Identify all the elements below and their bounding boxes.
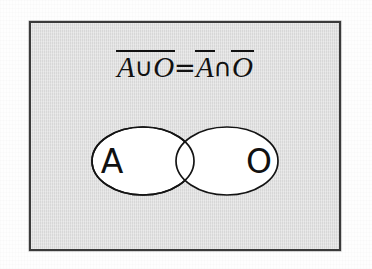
- overbar-union-group: A∪O: [117, 53, 174, 82]
- formula-right-set-o: O: [232, 51, 253, 83]
- equals-sign: =: [174, 53, 196, 83]
- venn-diagram: A O: [31, 114, 343, 214]
- figure-root: A∪O=A∩O A O: [0, 0, 372, 269]
- venn-label-o: O: [246, 142, 272, 181]
- set-identity-formula: A∪O=A∩O: [31, 53, 339, 82]
- union-operator-icon: ∪: [135, 53, 153, 82]
- formula-left-set-o: O: [153, 51, 174, 83]
- overbar-complement-a: A: [196, 53, 214, 82]
- overbar-complement-o: O: [232, 53, 253, 82]
- venn-label-a: A: [101, 142, 124, 181]
- formula-right-set-a: A: [196, 51, 214, 83]
- intersection-operator-icon: ∩: [214, 53, 232, 82]
- formula-left-set-a: A: [117, 51, 135, 83]
- illustration-panel: A∪O=A∩O A O: [29, 21, 341, 251]
